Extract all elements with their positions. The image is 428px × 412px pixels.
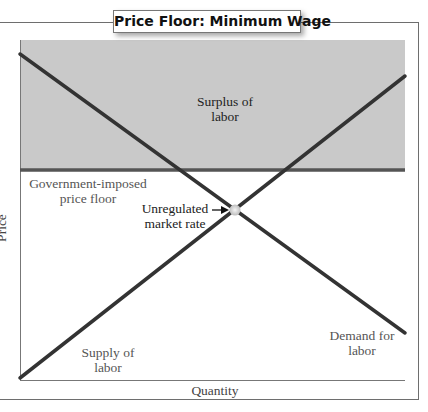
equilibrium-label-line1: Unregulated [135,201,215,216]
equilibrium-label-line2: market rate [135,216,215,231]
surplus-label-line1: Surplus of [180,94,270,109]
price-floor-label-line1: Government-imposed [24,176,152,191]
demand-label: Demand for labor [322,328,402,358]
demand-label-line1: Demand for [322,328,402,343]
demand-label-line2: labor [322,343,402,358]
y-axis-label: Price [0,214,10,242]
price-floor-label: Government-imposed price floor [24,176,152,206]
surplus-label: Surplus of labor [180,94,270,124]
supply-label: Supply of labor [68,345,148,375]
equilibrium-point [230,205,241,216]
surplus-label-line2: labor [180,109,270,124]
supply-label-line2: labor [68,360,148,375]
chart-title: Price Floor: Minimum Wage [113,10,301,33]
x-axis-label: Quantity [170,383,260,398]
price-floor-label-line2: price floor [24,191,152,206]
supply-label-line1: Supply of [68,345,148,360]
equilibrium-label: Unregulated market rate [135,201,215,231]
